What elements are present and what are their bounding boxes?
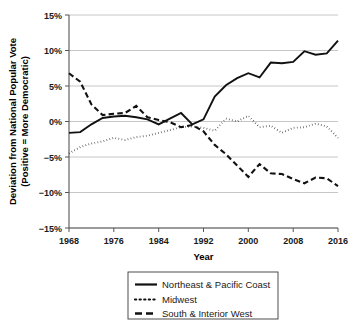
x-tick-label: 1968 [59,236,79,246]
x-tick-label: 2008 [283,236,303,246]
x-tick-label: 2016 [328,236,348,246]
x-axis-title: Year [193,251,213,262]
y-axis-title-line1: Deviation from National Popular Vote [7,38,18,205]
legend: Northeast & Pacific Coast Midwest South … [128,272,278,319]
x-tick-label: 1992 [193,236,213,246]
legend-label: South & Interior West [162,308,252,319]
chart-container: 15% 10% 5% 0% −5% −10% −15% 1968 1976 19… [0,0,356,328]
x-tick-label: 1976 [104,236,124,246]
y-axis-tickmarks [65,15,69,228]
x-axis-tick-labels: 1968 1976 1984 1992 2000 2008 2016 [59,236,348,246]
gridlines [69,15,338,228]
x-tick-label: 1984 [149,236,169,246]
data-series-group [69,41,338,187]
x-axis-tickmarks [69,228,338,232]
deviation-line-chart: 15% 10% 5% 0% −5% −10% −15% 1968 1976 19… [0,0,356,328]
x-tick-label: 2000 [238,236,258,246]
y-tick-label: 0% [49,117,62,127]
y-tick-label: 15% [44,11,62,21]
y-tick-label: 10% [44,46,62,56]
y-tick-label: −15% [39,224,62,234]
series-south-interior-west [69,73,338,186]
y-tick-label: 5% [49,82,62,92]
y-tick-label: −5% [44,153,62,163]
legend-label: Midwest [162,294,197,305]
y-axis-tick-labels: 15% 10% 5% 0% −5% −10% −15% [39,11,62,234]
legend-label: Northeast & Pacific Coast [162,279,271,290]
series-northeast-pacific-coast [69,41,338,133]
y-tick-label: −10% [39,188,62,198]
y-axis-title-line2: (Positive = More Democratic) [19,56,30,187]
